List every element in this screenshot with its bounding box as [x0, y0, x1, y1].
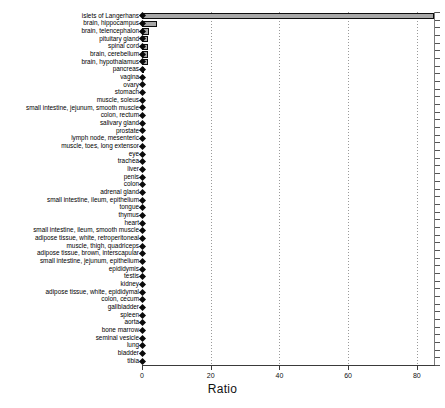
row-marker — [139, 273, 146, 280]
row-marker — [139, 81, 146, 88]
right-tick — [435, 173, 440, 174]
right-tick — [435, 227, 440, 228]
right-tick — [435, 119, 440, 120]
horizontal-bar-chart: islets of Langerhansbrain, hippocampusbr… — [0, 0, 445, 408]
right-tick — [435, 281, 440, 282]
right-tick — [435, 327, 440, 328]
right-tick — [435, 81, 440, 82]
row-marker — [139, 158, 146, 165]
right-tick — [435, 219, 440, 220]
row-marker — [139, 104, 146, 111]
right-tick — [435, 212, 440, 213]
x-tick-label-40: 40 — [266, 371, 292, 380]
row-marker — [139, 127, 146, 134]
right-tick — [435, 181, 440, 182]
x-tick-40 — [279, 365, 280, 370]
right-tick — [435, 304, 440, 305]
row-marker — [139, 358, 146, 365]
right-tick — [435, 242, 440, 243]
right-tick — [435, 365, 440, 366]
row-marker — [139, 166, 146, 173]
row-marker — [139, 112, 146, 119]
row-marker — [139, 181, 146, 188]
row-marker — [139, 197, 146, 204]
right-tick — [435, 319, 440, 320]
right-tick — [435, 20, 440, 21]
row-marker — [139, 342, 146, 349]
right-tick — [435, 135, 440, 136]
x-tick-20 — [211, 365, 212, 370]
row-marker — [139, 304, 146, 311]
bar — [142, 13, 434, 19]
right-tick — [435, 89, 440, 90]
right-tick — [435, 58, 440, 59]
right-tick — [435, 66, 440, 67]
right-tick — [435, 189, 440, 190]
right-tick — [435, 12, 440, 13]
x-tick-label-80: 80 — [404, 371, 430, 380]
row-marker — [139, 212, 146, 219]
right-tick — [435, 342, 440, 343]
right-tick — [435, 73, 440, 74]
right-tick — [435, 235, 440, 236]
right-tick — [435, 204, 440, 205]
right-tick — [435, 250, 440, 251]
row-marker — [139, 220, 146, 227]
right-tick — [435, 311, 440, 312]
right-tick — [435, 35, 440, 36]
row-marker — [139, 173, 146, 180]
row-marker — [139, 296, 146, 303]
row-marker — [139, 258, 146, 265]
right-tick — [435, 104, 440, 105]
x-tick-0 — [142, 365, 143, 370]
row-marker — [139, 189, 146, 196]
right-tick — [435, 357, 440, 358]
right-tick — [435, 273, 440, 274]
right-tick — [435, 96, 440, 97]
right-tick — [435, 334, 440, 335]
right-tick — [435, 165, 440, 166]
right-tick — [435, 43, 440, 44]
row-marker — [139, 204, 146, 211]
row-marker — [139, 66, 146, 73]
right-tick — [435, 288, 440, 289]
bar-rows: islets of Langerhansbrain, hippocampusbr… — [0, 12, 445, 365]
x-axis-label: Ratio — [0, 382, 445, 396]
x-tick-60 — [348, 365, 349, 370]
row-marker — [139, 143, 146, 150]
x-tick-label-20: 20 — [198, 371, 224, 380]
right-tick — [435, 158, 440, 159]
x-tick-80 — [417, 365, 418, 370]
row-marker — [139, 89, 146, 96]
row-marker — [139, 350, 146, 357]
right-tick — [435, 150, 440, 151]
right-tick — [435, 50, 440, 51]
right-tick — [435, 142, 440, 143]
right-tick — [435, 265, 440, 266]
row-marker — [139, 327, 146, 334]
row-marker — [139, 319, 146, 326]
right-tick — [435, 296, 440, 297]
x-tick-label-0: 0 — [129, 371, 155, 380]
row-marker — [139, 250, 146, 257]
category-label: tibia — [127, 357, 139, 365]
row-marker — [139, 281, 146, 288]
right-tick — [435, 127, 440, 128]
row-marker — [139, 135, 146, 142]
category-label: muscle, toes, long extensor — [61, 142, 139, 150]
x-tick-label-60: 60 — [335, 371, 361, 380]
right-tick — [435, 196, 440, 197]
row-marker — [139, 227, 146, 234]
row-marker — [139, 235, 146, 242]
row-marker — [139, 150, 146, 157]
right-tick — [435, 258, 440, 259]
right-tick — [435, 350, 440, 351]
right-tick — [435, 27, 440, 28]
right-tick — [435, 112, 440, 113]
x-axis-line — [142, 365, 435, 366]
